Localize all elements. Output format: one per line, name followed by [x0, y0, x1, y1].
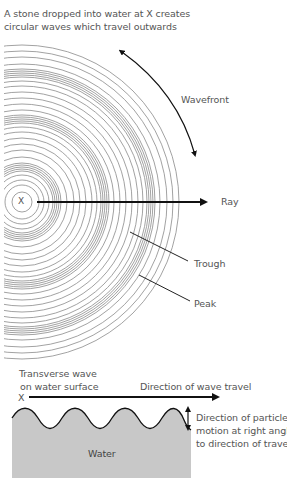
travel-direction-label: Direction of wave travel — [140, 380, 251, 393]
clipped-figure-caption — [0, 484, 287, 489]
wavefront-label: Wavefront — [181, 93, 229, 106]
ray-label: Ray — [221, 195, 239, 208]
motion-label-line-1: Direction of particle — [196, 411, 287, 424]
transverse-title-line-2: on water surface — [20, 380, 98, 393]
peak-label: Peak — [194, 297, 216, 310]
trough-label: Trough — [194, 257, 225, 270]
motion-label-line-2: motion at right angles — [196, 424, 287, 437]
center-x-label: X — [18, 195, 24, 208]
motion-label-line-3: to direction of travel — [196, 437, 287, 450]
transverse-title-line-1: Transverse wave — [19, 367, 97, 380]
origin-x-label: X — [18, 391, 24, 404]
water-label: Water — [88, 447, 116, 460]
